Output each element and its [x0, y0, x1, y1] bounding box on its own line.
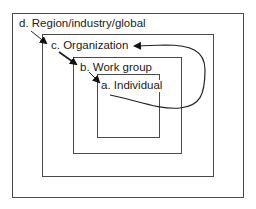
arrow-a-to-c-curved [110, 45, 205, 108]
arrow-d-to-c [31, 31, 46, 43]
arrows-layer [0, 0, 256, 209]
arrow-c-to-b [59, 52, 76, 64]
arrow-b-to-a [89, 72, 99, 82]
